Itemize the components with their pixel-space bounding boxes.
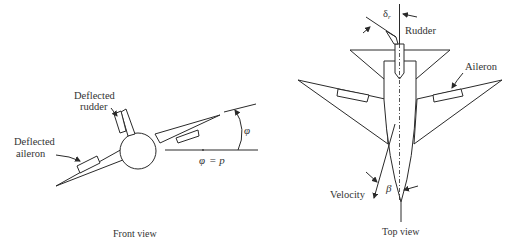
aileron-pointer-arrow-top <box>452 73 463 88</box>
fuselage-circle <box>120 133 156 169</box>
roll-rate-dot <box>202 149 204 151</box>
rudder-deflection-symbol: δr <box>383 8 391 21</box>
roll-angle-arc <box>235 110 242 150</box>
deflected-rudder-label-line2: rudder <box>80 101 108 112</box>
delta-r-arrow-right <box>403 14 417 17</box>
rudder-label: Rudder <box>405 25 436 36</box>
beta-arrow-right <box>404 186 418 190</box>
velocity-label: Velocity <box>330 189 366 200</box>
deflected-rudder-label-line1: Deflected <box>74 90 116 101</box>
front-vertical-tail <box>114 109 135 136</box>
front-view-caption: Front view <box>113 228 157 239</box>
roll-rate-equals-p: = p <box>209 154 225 166</box>
front-view: Deflected rudder Deflected aileron φ φ =… <box>14 90 258 239</box>
fuselage <box>384 61 416 202</box>
aircraft-control-diagram: Deflected rudder Deflected aileron φ φ =… <box>0 0 514 249</box>
deflected-aileron-label-line2: aileron <box>16 148 46 159</box>
diagram-svg: Deflected rudder Deflected aileron φ φ =… <box>0 0 514 249</box>
top-view-caption: Top view <box>382 226 420 237</box>
roll-angle-symbol: φ <box>244 124 250 136</box>
rudder-deflection-line <box>366 17 396 37</box>
wing-reference-line <box>224 104 256 112</box>
beta-arrow-left <box>366 172 377 182</box>
roll-rate-symbol: φ <box>199 154 205 166</box>
deflected-aileron-label-line1: Deflected <box>14 136 56 147</box>
sideslip-symbol: β <box>385 182 392 194</box>
delta-r-arrow-left <box>363 27 370 33</box>
aileron-pointer-arrow <box>56 155 80 161</box>
aileron-label: Aileron <box>465 61 498 72</box>
deflected-rudder <box>386 31 398 44</box>
top-view: δr Rudder Aileron Velocity β Top view <box>298 4 502 237</box>
